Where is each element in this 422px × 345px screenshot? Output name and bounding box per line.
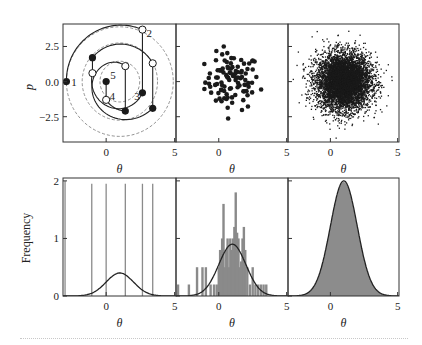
sample-point [229, 66, 234, 71]
sample-point [243, 78, 248, 83]
trajectory-arc [66, 25, 142, 82]
sample-point [225, 95, 230, 100]
x-tick-label: 5 [395, 146, 401, 158]
x-axis-label: θ [229, 316, 235, 330]
figure-canvas: 1234505θ2.50.0−2.5 05θ 05θ 05θ012 05θ 05… [0, 0, 422, 345]
x-tick-label: 0 [103, 300, 109, 312]
x-tick-label: 5 [172, 146, 178, 158]
sample-point [220, 52, 225, 57]
y-tick-label: 0 [54, 290, 60, 302]
density-curve [63, 273, 176, 296]
sample-point [229, 61, 234, 66]
histogram-bar [249, 284, 251, 296]
sample-point [250, 90, 255, 95]
sample-point [214, 75, 219, 80]
sample-point [233, 93, 238, 98]
axes-frame [63, 24, 176, 142]
sample-point [241, 98, 246, 103]
open-point [139, 26, 146, 33]
step-annotation: 1 [71, 76, 77, 88]
x-tick-label: 0 [103, 146, 109, 158]
open-point [89, 70, 96, 77]
sample-point [239, 69, 244, 74]
histogram-bar [213, 284, 215, 296]
sample-point [237, 83, 242, 88]
axes-frame [63, 178, 176, 296]
sample-point [221, 44, 226, 49]
sample-point [217, 68, 222, 73]
x-tick-label: 0 [328, 146, 334, 158]
sample-point [226, 116, 231, 121]
histogram-bar [209, 284, 211, 296]
sample-point [222, 58, 227, 63]
y-tick-label: −2.5 [39, 111, 59, 123]
sample-point [234, 69, 239, 74]
filled-point [139, 89, 146, 96]
filled-point [149, 105, 156, 112]
x-tick-label: 5 [284, 146, 290, 158]
panel-phase-scatter-100: 05θ [176, 24, 290, 176]
sample-point [206, 76, 211, 81]
sample-point [202, 62, 207, 67]
sample-point [240, 108, 245, 113]
sample-point [259, 87, 264, 92]
y-tick-label: 2 [54, 175, 60, 187]
sample-point [214, 58, 219, 63]
open-point [149, 60, 156, 67]
step-annotation: 2 [147, 27, 153, 39]
panel-histogram-100: 05θ [176, 178, 290, 330]
sample-point [245, 93, 250, 98]
x-tick-label: 5 [172, 300, 178, 312]
histogram-bar [196, 267, 198, 296]
sample-point [219, 80, 224, 85]
axes-frame [176, 24, 288, 142]
sample-point [217, 96, 222, 101]
sample-point [246, 104, 251, 109]
sample-point [250, 58, 255, 63]
sample-point [239, 58, 244, 63]
panel-histogram-dense: 05θ [288, 178, 401, 330]
sample-point [235, 65, 240, 70]
histogram-bar [177, 284, 179, 296]
panel-phase-trajectory: 1234505θ2.50.0−2.5 [39, 24, 178, 176]
panel-phase-scatter-dense: 05θ [288, 21, 402, 176]
histogram-bar [246, 267, 248, 296]
sample-point [229, 71, 234, 76]
filled-point [122, 107, 129, 114]
sample-point [244, 89, 249, 94]
filled-point [89, 54, 96, 61]
trajectory-arc [92, 44, 152, 63]
histogram-bar [254, 284, 256, 296]
filled-point [103, 78, 110, 85]
step-annotation: 4 [110, 90, 116, 102]
y-tick-label: 1 [54, 232, 60, 244]
x-tick-label: 0 [328, 300, 334, 312]
histogram-bar [262, 284, 264, 296]
sample-point [214, 49, 219, 54]
sample-point [224, 73, 229, 78]
x-tick-label: 0 [216, 300, 222, 312]
x-axis-label: θ [229, 162, 235, 176]
open-point [122, 63, 129, 70]
sample-point [229, 56, 234, 61]
step-annotation: 5 [110, 69, 116, 81]
x-axis-label: θ [341, 316, 347, 330]
footer-divider [20, 338, 408, 339]
histogram-bar [188, 284, 190, 296]
sample-point [202, 87, 207, 92]
y-axis-label-frequency: Frequency [19, 213, 33, 264]
x-axis-label: θ [117, 162, 123, 176]
x-axis-label: θ [341, 162, 347, 176]
x-axis-label: θ [117, 316, 123, 330]
sample-point [246, 84, 251, 89]
sample-point [208, 71, 213, 76]
sample-point [254, 75, 259, 80]
sample-point [242, 61, 247, 66]
sample-point [215, 82, 220, 87]
step-annotation: 3 [134, 90, 140, 102]
sample-point [225, 105, 230, 110]
histogram-area [288, 182, 399, 296]
sample-point [222, 84, 227, 89]
x-tick-label: 5 [284, 300, 290, 312]
sample-point [225, 51, 230, 56]
